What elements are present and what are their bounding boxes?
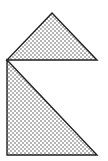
top-triangle [7, 13, 97, 60]
bottom-triangle [7, 60, 97, 155]
diagram-canvas [0, 0, 108, 161]
